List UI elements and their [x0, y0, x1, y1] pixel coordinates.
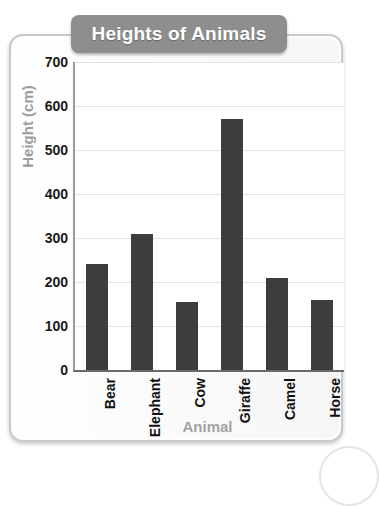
gridline [75, 62, 344, 63]
bar-horse [311, 300, 333, 370]
gridline [75, 106, 344, 107]
gridline [75, 150, 344, 151]
gridline [75, 194, 344, 195]
plot-area [73, 62, 344, 372]
x-axis-title: Animal [73, 418, 342, 435]
bar-cow [176, 302, 198, 370]
bar-camel [266, 278, 288, 370]
gridline [75, 282, 344, 283]
bar-bear [86, 264, 108, 370]
bar-giraffe [221, 119, 243, 370]
x-axis-tick-label: Giraffe [237, 378, 253, 423]
chart-title: Heights of Animals [92, 23, 267, 45]
bar-elephant [131, 234, 153, 370]
x-axis-tick-label: Bear [102, 378, 118, 409]
gridline [75, 238, 344, 239]
x-axis-tick-label: Horse [327, 378, 343, 418]
page-edge-artifact [319, 446, 379, 506]
x-axis-tick-label: Cow [192, 378, 208, 408]
chart-title-badge: Heights of Animals [71, 15, 287, 53]
gridline [75, 326, 344, 327]
x-axis-tick-label: Camel [282, 378, 298, 420]
